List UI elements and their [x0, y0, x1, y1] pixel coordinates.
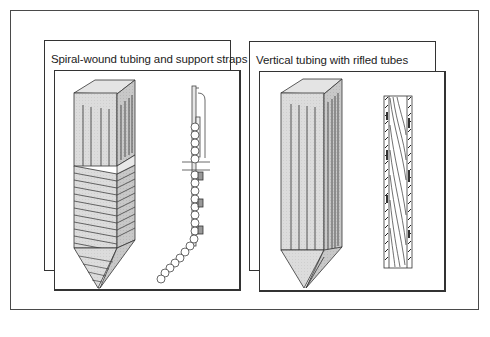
spiral-wound-column-illustration	[74, 80, 135, 288]
rifled-tube-section-illustration	[384, 96, 412, 268]
vertical-tube-column-illustration	[281, 79, 342, 288]
support-strap-side-view-illustration	[157, 86, 210, 283]
